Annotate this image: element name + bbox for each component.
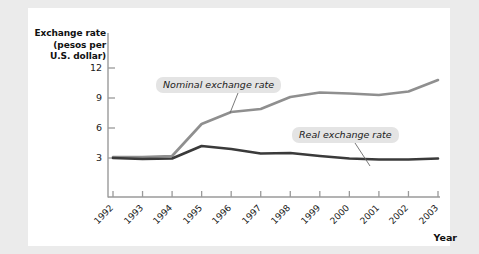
axes-layer [108,33,440,198]
x-axis-title: Year [433,232,457,243]
y-tick-label: 3 [80,152,102,163]
y-tick-label: 6 [80,122,102,133]
series-line-real-exchange-rate [113,146,438,160]
annotation-nominal-exchange-rate: Nominal exchange rate [156,77,281,93]
plot-canvas [0,0,479,254]
y-tick-label: 9 [80,92,102,103]
annotation-real-exchange-rate: Real exchange rate [292,127,399,143]
leader-line-real [355,143,370,166]
leader-line-nominal [230,93,238,113]
chart-figure: Exchange rate (pesos per U.S. dollar) 36… [0,0,479,254]
y-tick-label: 12 [80,62,102,73]
